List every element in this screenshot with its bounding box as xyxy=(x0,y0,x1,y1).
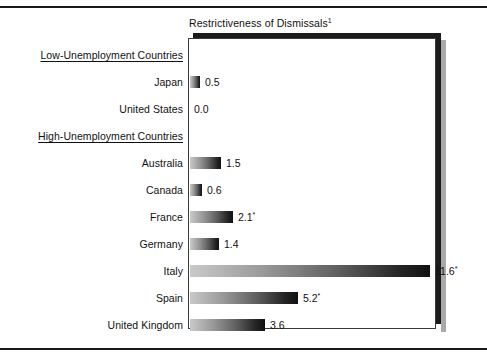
chart-title-footnote-marker: 1 xyxy=(328,17,332,24)
bar-value-number: 0.6 xyxy=(207,184,222,196)
bar-value-footnote-marker: * xyxy=(253,211,256,218)
category-label: Canada xyxy=(0,180,183,200)
group-header-label: High-Unemployment Countries xyxy=(0,126,183,146)
chart-bar-row: Spain5.2* xyxy=(0,288,487,308)
chart-group-header-row: Low-Unemployment Countries xyxy=(0,45,487,65)
chart-title-text: Restrictiveness of Dismissals xyxy=(189,17,328,29)
chart-bar-row: Italy11.6* xyxy=(0,261,487,281)
bar-value-label: 3.6 xyxy=(270,315,285,335)
bar-value-number: 5.2 xyxy=(303,292,318,304)
chart-bar-row: Japan0.5 xyxy=(0,72,487,92)
category-label: France xyxy=(0,207,183,227)
bar xyxy=(190,238,219,250)
category-label: United Kingdom xyxy=(0,315,183,335)
bar-value-number: 11.6 xyxy=(435,265,455,277)
bar-value-label: 1.4 xyxy=(224,234,239,254)
category-label: Japan xyxy=(0,72,183,92)
chart-group-header-row: High-Unemployment Countries xyxy=(0,126,487,146)
bar-value-label: 0.6 xyxy=(207,180,222,200)
bar-value-number: 0.5 xyxy=(205,76,220,88)
bar-value-footnote-marker: * xyxy=(455,265,458,272)
bar xyxy=(190,319,265,331)
bar-value-footnote-marker: * xyxy=(318,292,321,299)
chart-figure: Restrictiveness of Dismissals1 Low-Unemp… xyxy=(0,0,487,359)
bar xyxy=(190,211,233,223)
bar xyxy=(190,184,202,196)
chart-bar-row: Australia1.5 xyxy=(0,153,487,173)
bar xyxy=(190,292,298,304)
chart-bar-row: Germany1.4 xyxy=(0,234,487,254)
chart-bar-row: United Kingdom3.6 xyxy=(0,315,487,335)
category-label: Italy xyxy=(0,261,183,281)
bar-value-label: 1.5 xyxy=(226,153,241,173)
category-label: Germany xyxy=(0,234,183,254)
bar-value-label: 2.1* xyxy=(238,207,255,227)
bar-value-number: 1.5 xyxy=(226,157,241,169)
bar-value-label: 5.2* xyxy=(303,288,320,308)
bar-value-number: 0.0 xyxy=(194,103,209,115)
bar xyxy=(190,265,430,277)
bar-value-number: 2.1 xyxy=(238,211,253,223)
bar-value-number: 1.4 xyxy=(224,238,239,250)
bar-value-label: 0.5 xyxy=(205,72,220,92)
group-header-label: Low-Unemployment Countries xyxy=(0,45,183,65)
bar-value-label: 11.6* xyxy=(435,261,457,281)
category-label: Australia xyxy=(0,153,183,173)
bar-value-number: 3.6 xyxy=(270,319,285,331)
bottom-rule xyxy=(0,348,487,350)
top-rule xyxy=(0,6,487,8)
category-label: United States xyxy=(0,99,183,119)
chart-title: Restrictiveness of Dismissals1 xyxy=(189,17,332,29)
bar-value-label: 0.0 xyxy=(194,99,209,119)
bar xyxy=(190,76,200,88)
bar xyxy=(190,157,221,169)
category-label: Spain xyxy=(0,288,183,308)
chart-bar-row: United States0.0 xyxy=(0,99,487,119)
chart-bar-row: France2.1* xyxy=(0,207,487,227)
chart-bar-row: Canada0.6 xyxy=(0,180,487,200)
